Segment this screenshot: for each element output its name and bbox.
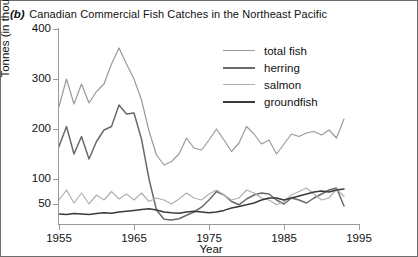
legend-label: groundfish [264,96,318,108]
x-tick-mark [134,225,135,230]
x-tick-label: 1955 [39,232,79,244]
series-line-herring [59,105,344,220]
legend-label: herring [264,62,300,74]
x-tick-mark [284,225,285,230]
legend-item-groundfish: groundfish [223,93,318,110]
legend-label: salmon [264,79,301,91]
y-tick-label: 400 [9,23,51,35]
y-axis-label: Tonnes (in thousands) [0,0,11,80]
legend-item-total-fish: total fish [223,42,318,59]
y-tick-mark [53,179,58,180]
y-tick-mark [53,29,58,30]
x-tick-label: 1975 [189,232,229,244]
page-title: Canadian Commercial Fish Catches in the … [29,8,327,20]
x-tick-mark [359,225,360,230]
x-tick-label: 1995 [339,232,379,244]
figure-title: (b) Canadian Commercial Fish Catches in … [10,4,327,22]
panel-label: (b) [10,8,25,20]
legend-item-salmon: salmon [223,76,318,93]
x-tick-mark [209,225,210,230]
legend-swatch-total-fish [223,50,255,52]
y-tick-label: 300 [9,73,51,85]
x-tick-label: 1965 [114,232,154,244]
legend-swatch-herring [223,67,255,69]
y-tick-label: 50 [9,198,51,210]
chart-legend: total fishherringsalmongroundfish [223,42,318,110]
y-tick-label: 100 [9,173,51,185]
legend-item-herring: herring [223,59,318,76]
legend-label: total fish [264,45,307,57]
legend-swatch-groundfish [223,101,255,103]
figure-panel: (b) Canadian Commercial Fish Catches in … [0,0,418,257]
y-tick-mark [53,204,58,205]
x-tick-mark [59,225,60,230]
series-line-salmon [59,188,344,205]
y-tick-mark [53,79,58,80]
legend-swatch-salmon [223,84,255,86]
x-tick-label: 1985 [264,232,304,244]
y-tick-label: 200 [9,123,51,135]
y-tick-mark [53,129,58,130]
x-axis-label: Year [151,243,271,255]
